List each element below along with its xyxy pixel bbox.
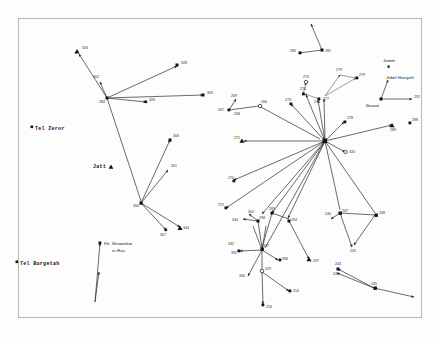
marker-278 xyxy=(344,121,347,124)
marker-280 xyxy=(299,52,302,55)
label-320: 320 xyxy=(349,150,355,154)
label-246: 246 xyxy=(325,212,331,216)
label-tel-zeror: Tel Zeror xyxy=(35,126,65,132)
marker-303 xyxy=(202,94,205,97)
label-330: 330 xyxy=(239,274,245,278)
label-289: 289 xyxy=(390,128,396,132)
label-298: 298 xyxy=(259,216,265,220)
marker-ibsaan xyxy=(380,98,383,101)
cluster-247 xyxy=(331,213,375,247)
label-337: 337 xyxy=(263,244,269,248)
marker-main-hub xyxy=(323,139,328,144)
cluster-281 xyxy=(299,24,322,53)
label-247: 247 xyxy=(342,209,348,213)
label-280: 280 xyxy=(290,49,296,53)
label-309: 309 xyxy=(149,98,155,102)
label-276: 276 xyxy=(314,100,320,104)
label-332: 332 xyxy=(228,242,234,246)
label-275: 275 xyxy=(303,75,309,79)
marker-214 xyxy=(289,290,292,293)
label-jamm: Jamm xyxy=(383,58,395,63)
label-jebel-haniyeh: Jebel Haniyeh xyxy=(386,75,414,80)
marker-271 xyxy=(239,139,244,143)
marker-288 xyxy=(409,122,412,125)
marker-244 xyxy=(337,268,340,271)
label-331: 331 xyxy=(231,251,237,255)
label-245: 245 xyxy=(350,249,356,253)
marker-328 xyxy=(176,64,179,67)
label-248: 248 xyxy=(379,211,385,215)
site-markers xyxy=(16,49,412,307)
marker-326 xyxy=(74,49,79,53)
label-307: 307 xyxy=(160,233,166,237)
cluster-294 xyxy=(262,213,309,259)
cluster-329 xyxy=(262,272,289,304)
label-jatt: Jatt xyxy=(93,164,106,170)
marker-266 xyxy=(258,104,261,107)
marker-kh-shuweikat xyxy=(99,242,102,245)
marker-297 xyxy=(306,257,311,261)
place-labels: Tel Zeror Jatt Tel Burgetah Kh. Shuweika… xyxy=(20,58,414,267)
label-279b: 279 xyxy=(359,73,365,77)
marker-284 xyxy=(106,97,109,100)
marker-245 xyxy=(374,287,377,290)
marker-300 xyxy=(140,202,143,205)
label-334: 334 xyxy=(232,218,238,222)
marker-274 xyxy=(302,93,305,96)
label-tel-burgetah: Tel Burgetah xyxy=(20,261,60,267)
label-214: 214 xyxy=(293,289,299,293)
label-267: 267 xyxy=(218,108,224,112)
marker-336 xyxy=(279,259,282,262)
cluster-ibsaan xyxy=(381,80,412,99)
cluster-337 xyxy=(240,226,278,276)
cluster-266 xyxy=(229,99,320,139)
label-302: 302 xyxy=(93,75,99,79)
label-326: 326 xyxy=(82,46,88,50)
label-297: 297 xyxy=(313,259,319,263)
marker-275 xyxy=(304,80,307,83)
label-329: 329 xyxy=(265,267,271,271)
cluster-277 xyxy=(303,75,356,99)
label-279: 279 xyxy=(336,68,342,72)
marker-tel-zeror xyxy=(31,126,34,129)
marker-jamm xyxy=(388,66,390,68)
marker-279 xyxy=(356,77,359,80)
label-292: 292 xyxy=(414,95,420,99)
label-281: 281 xyxy=(325,49,331,53)
label-306: 306 xyxy=(173,134,179,138)
label-303: 303 xyxy=(207,91,213,95)
marker-273 xyxy=(290,103,293,106)
label-336: 336 xyxy=(282,257,288,261)
label-277: 277 xyxy=(323,97,329,101)
site-network-map: 326 328 302 284 309 303 306 301 300 307 … xyxy=(0,0,440,337)
label-er-ras: er-Ras xyxy=(112,248,126,253)
label-301: 301 xyxy=(171,164,177,168)
marker-267 xyxy=(228,109,231,112)
label-266: 266 xyxy=(261,100,267,104)
label-270: 270 xyxy=(228,176,234,180)
cluster-shuweikat xyxy=(95,243,100,302)
label-271: 271 xyxy=(234,136,240,140)
label-302b: 302 xyxy=(248,210,254,214)
marker-jatt xyxy=(109,165,114,169)
marker-tel-burgetah xyxy=(16,261,19,264)
label-243: 243 xyxy=(333,272,339,276)
label-269: 269 xyxy=(231,94,237,98)
label-284: 284 xyxy=(99,100,105,104)
label-283: 283 xyxy=(269,207,275,211)
marker-337 xyxy=(261,248,264,251)
marker-216 xyxy=(262,304,265,307)
label-294: 294 xyxy=(291,218,297,222)
marker-272 xyxy=(225,207,228,210)
label-272: 272 xyxy=(218,203,224,207)
marker-329 xyxy=(260,269,264,273)
label-344: 344 xyxy=(183,226,189,230)
marker-283 xyxy=(271,212,274,215)
label-300: 300 xyxy=(133,204,139,208)
map-frame xyxy=(19,19,422,318)
label-268: 268 xyxy=(234,112,240,116)
marker-281 xyxy=(321,49,324,52)
marker-307 xyxy=(165,229,168,232)
cluster-main-hub xyxy=(226,95,392,248)
marker-331 xyxy=(238,250,241,253)
